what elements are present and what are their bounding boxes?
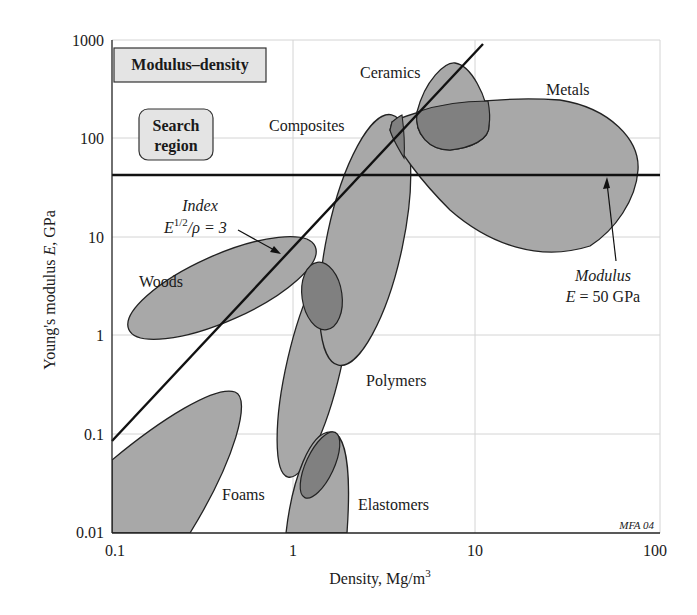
- x-tick-0.1: 0.1: [105, 542, 125, 559]
- y-tick-100: 100: [80, 130, 104, 147]
- label-metals: Metals: [546, 81, 590, 98]
- label-elastomers: Elastomers: [358, 496, 429, 513]
- y-tick-0.01: 0.01: [76, 524, 104, 541]
- label-ceramics: Ceramics: [360, 64, 420, 81]
- search-region-line2: region: [154, 137, 197, 155]
- x-tick-100: 100: [643, 542, 667, 559]
- modulus-density-chart: 1000 100 10 1 0.1 0.01 0.1 1 10 100 Dens…: [0, 0, 697, 615]
- y-tick-1: 1: [96, 327, 104, 344]
- search-region-line1: Search: [153, 117, 200, 134]
- y-tick-0.1: 0.1: [84, 426, 104, 443]
- modulus-annotation-title: Modulus: [574, 267, 631, 284]
- credit-label: MFA 04: [618, 519, 654, 531]
- chart-title: Modulus–density: [131, 56, 248, 74]
- y-tick-10: 10: [88, 229, 104, 246]
- label-woods: Woods: [139, 273, 183, 290]
- label-composites: Composites: [269, 117, 345, 135]
- x-tick-1: 1: [289, 542, 297, 559]
- y-tick-1000: 1000: [72, 32, 104, 49]
- x-axis-title: Density, Mg/m3: [329, 567, 431, 588]
- index-annotation-equation: E1/2/ρ = 3: [163, 216, 227, 237]
- label-polymers: Polymers: [366, 372, 426, 390]
- y-axis-title: Young's modulus E, GPa: [41, 210, 59, 370]
- x-tick-10: 10: [467, 542, 483, 559]
- index-annotation-title: Index: [181, 197, 218, 214]
- modulus-annotation-equation: E = 50 GPa: [565, 288, 640, 305]
- label-foams: Foams: [222, 486, 265, 503]
- region-foams: [112, 391, 241, 533]
